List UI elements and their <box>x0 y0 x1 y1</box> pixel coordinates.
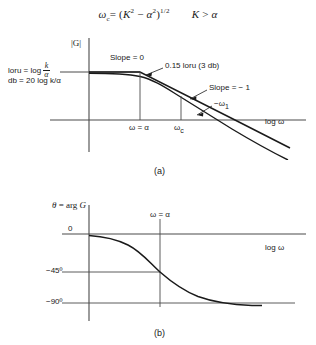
panel-a-plot <box>0 30 316 160</box>
left-note-numerator: k <box>43 62 49 70</box>
panel-b-y-axis-label: θ = arg G <box>52 200 86 210</box>
G-symbol: G <box>80 200 87 210</box>
panel-a-slope-minus-one-label: Slope = − 1 <box>209 83 250 93</box>
equation-minus: − <box>134 8 146 20</box>
omega1-text: −ω <box>214 99 225 108</box>
equation-equals: = ( <box>110 8 123 20</box>
omegac-subscript: c <box>180 127 184 134</box>
panel-b-tick-label-alpha: ω = α <box>150 210 170 220</box>
panel-a-slope-zero-label: Slope = 0 <box>110 53 144 63</box>
panel-b-ytick-0: 0 <box>68 224 72 234</box>
panel-a-omega1-label: −ω1 <box>214 99 229 111</box>
panel-a-y-axis-label: |G| <box>71 38 81 48</box>
panel-a-x-axis-label: log ω <box>265 117 284 127</box>
condition-alpha: α <box>212 8 218 20</box>
panel-b-caption: (b) <box>154 328 165 338</box>
equation-K: K <box>123 8 131 20</box>
figure-root: ωc= (K2 − α2)1/2K > α |G| loru = log kα … <box>0 0 316 345</box>
arg-text: = arg <box>56 200 79 210</box>
equation-half-power: 1/2 <box>160 7 170 15</box>
panel-a-tick-label-alpha: ω = α <box>129 123 149 133</box>
panel-a-left-note-line2: db = 20 log k/α <box>8 76 61 86</box>
panel-a-peak-label: 0.15 loru (3 db) <box>165 61 219 71</box>
omega1-subscript: 1 <box>225 103 229 110</box>
left-note-prefix: loru = log <box>8 66 43 75</box>
condition-gt: > <box>199 8 211 20</box>
panel-b-ytick-minus45: −45º <box>46 266 63 276</box>
panel-b-x-axis-label: log ω <box>265 243 284 253</box>
panel-a-tick-label-omegac: ωc <box>174 123 184 135</box>
panel-b-ytick-minus90: −90º <box>46 297 63 307</box>
panel-a-caption: (a) <box>154 166 165 176</box>
equation-omega-c: ωc= (K2 − α2)1/2K > α <box>0 7 316 23</box>
